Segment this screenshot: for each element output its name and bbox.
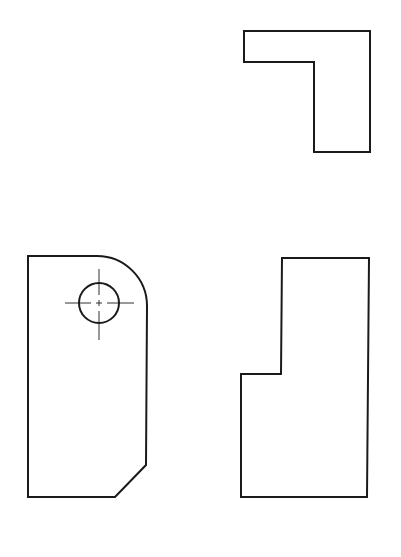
top-view-outline — [244, 31, 370, 152]
front-view-outline — [28, 256, 147, 497]
side-view-outline — [241, 258, 369, 497]
hole-centerlines — [65, 269, 134, 340]
drawing-canvas — [0, 0, 401, 557]
